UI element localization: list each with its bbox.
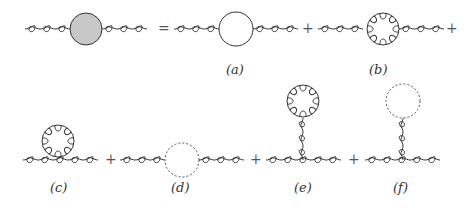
label-b: (b) (369, 62, 387, 77)
label-f: (f) (393, 180, 408, 195)
self-energy-blob (70, 13, 102, 45)
gluon-loop (287, 85, 319, 117)
gluon-loop (367, 13, 399, 45)
ghost-loop (165, 143, 199, 177)
plus-sign: + (446, 20, 458, 36)
gluon-line-left (25, 26, 70, 32)
gluon-loop (42, 125, 74, 157)
equals-sign: = (158, 20, 170, 36)
plus-sign: + (348, 151, 360, 167)
lhs-full-self-energy (25, 13, 147, 45)
label-a: (a) (226, 62, 244, 77)
label-c: (c) (50, 180, 67, 195)
plus-sign: + (250, 151, 262, 167)
diagram-f-ghost-tadpole: (f) (365, 84, 440, 195)
diagram-a-quark-loop: (a) (174, 12, 298, 77)
diagram-e-gluon-tadpole: (e) (266, 85, 341, 195)
ghost-loop (386, 84, 420, 118)
feynman-diagram-equation: = (a) + (b) + (c) + (d) + (e) + (0, 0, 471, 208)
diagram-b-gluon-loop: (b) (318, 13, 444, 77)
plus-sign: + (105, 151, 117, 167)
quark-loop (219, 12, 253, 46)
diagram-c-seagull-gluon-loop: (c) (23, 125, 98, 195)
plus-sign: + (302, 20, 314, 36)
diagram-d-ghost-loop: (d) (120, 143, 244, 195)
label-e: (e) (294, 180, 312, 195)
label-d: (d) (171, 180, 189, 195)
gluon-line-right (102, 26, 147, 32)
